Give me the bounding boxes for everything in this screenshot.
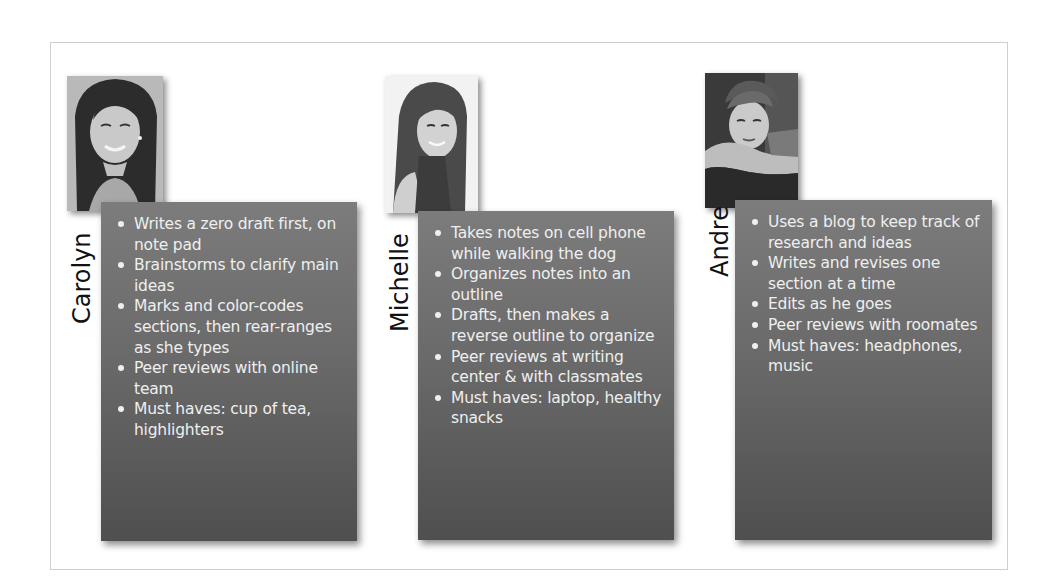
list-item: Peer reviews with roomates [749, 315, 982, 336]
list-item: Writes a zero draft first, on note pad [115, 214, 347, 255]
carolyn-name-label: Carolyn [68, 232, 96, 324]
girl-portrait-icon [385, 76, 478, 213]
michelle-photo [385, 76, 478, 213]
michelle-habits-list: Takes notes on cell phone while walking … [432, 223, 664, 429]
woman-portrait-icon [67, 76, 163, 211]
list-item: Must haves: cup of tea, highlighters [115, 399, 347, 440]
list-item: Writes and revises one section at a time [749, 253, 982, 294]
list-item: Brainstorms to clarify main ideas [115, 255, 347, 296]
carolyn-photo [67, 76, 163, 211]
andre-name-label: Andre [706, 206, 734, 277]
list-item: Marks and color-codes sections, then rea… [115, 296, 347, 358]
boy-portrait-icon [705, 73, 798, 208]
list-item: Uses a blog to keep track of research an… [749, 212, 982, 253]
carolyn-habits-list: Writes a zero draft first, on note pad B… [115, 214, 347, 441]
michelle-habits-card: Takes notes on cell phone while walking … [418, 211, 674, 540]
list-item: Drafts, then makes a reverse outline to … [432, 305, 664, 346]
list-item: Peer reviews with online team [115, 358, 347, 399]
michelle-name-label: Michelle [386, 233, 414, 332]
list-item: Peer reviews at writing center & with cl… [432, 347, 664, 388]
list-item: Must haves: headphones, music [749, 336, 982, 377]
list-item: Takes notes on cell phone while walking … [432, 223, 664, 264]
carolyn-habits-card: Writes a zero draft first, on note pad B… [101, 202, 357, 541]
andre-habits-list: Uses a blog to keep track of research an… [749, 212, 982, 377]
list-item: Must haves: laptop, healthy snacks [432, 388, 664, 429]
list-item: Edits as he goes [749, 294, 982, 315]
list-item: Organizes notes into an outline [432, 264, 664, 305]
andre-photo [705, 73, 798, 208]
andre-habits-card: Uses a blog to keep track of research an… [735, 200, 992, 540]
